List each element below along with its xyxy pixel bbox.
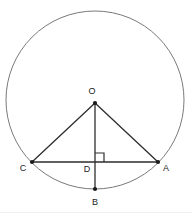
geometry-figure: O C A D B <box>0 0 192 217</box>
point-o-dot <box>93 101 97 105</box>
point-label-c: C <box>20 163 27 173</box>
right-angle-at-d-icon <box>95 153 104 162</box>
point-c-dot <box>30 160 34 164</box>
point-b-dot <box>93 187 97 191</box>
segment-oc <box>32 103 95 162</box>
point-label-a: A <box>163 163 169 173</box>
point-a-dot <box>156 160 160 164</box>
point-label-d: D <box>84 164 91 174</box>
baseline-rule <box>0 212 192 213</box>
point-label-b: B <box>92 197 98 207</box>
geometry-canvas: O C A D B <box>0 0 192 217</box>
point-label-o: O <box>88 86 95 96</box>
